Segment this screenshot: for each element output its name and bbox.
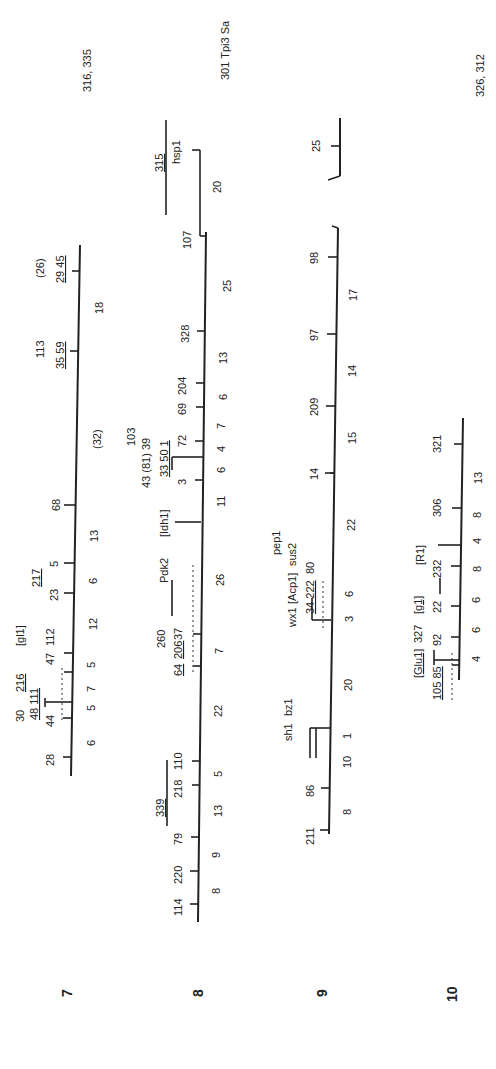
svg-text:220: 220: [172, 866, 184, 884]
svg-text:218: 218: [172, 780, 184, 798]
svg-text:33 50 1: 33 50 1: [158, 440, 170, 477]
svg-text:64: 64: [172, 664, 184, 676]
svg-text:327: 327: [412, 625, 424, 643]
svg-text:13: 13: [217, 352, 229, 364]
svg-text:15: 15: [346, 432, 358, 444]
svg-text:26: 26: [214, 574, 226, 586]
svg-text:6: 6: [87, 578, 99, 584]
svg-text:22: 22: [212, 705, 224, 717]
svg-text:43 (81) 39: 43 (81) 39: [140, 438, 152, 488]
svg-text:37: 37: [172, 628, 184, 640]
svg-text:6: 6: [217, 394, 229, 400]
svg-text:(32): (32): [91, 429, 103, 449]
chromosome-7-label: 7: [59, 989, 75, 997]
svg-text:5: 5: [85, 705, 97, 711]
svg-text:4: 4: [215, 446, 227, 452]
svg-text:315: 315: [153, 154, 165, 172]
svg-text:10: 10: [341, 756, 353, 768]
chromosome-7-labels: 28 44 48 111 30 216 47 112 [gl1] 23 217 …: [14, 49, 105, 997]
svg-text:[Glu1]: [Glu1]: [412, 649, 424, 678]
svg-text:7: 7: [85, 686, 97, 692]
svg-text:6: 6: [470, 627, 482, 633]
chromosome-10-labels: 105 85 [Glu1] 327 92 [g1] 22 232 [R1] 30…: [412, 54, 486, 1002]
svg-text:339: 339: [154, 799, 166, 817]
svg-text:23: 23: [48, 589, 60, 601]
svg-text:98: 98: [308, 252, 320, 264]
svg-text:14: 14: [346, 365, 358, 377]
svg-text:107: 107: [181, 231, 193, 249]
svg-text:(26): (26): [34, 258, 46, 278]
svg-text:301 Tpi3 Sa: 301 Tpi3 Sa: [219, 20, 231, 80]
svg-text:206: 206: [172, 641, 184, 659]
chromosome-10: [434, 418, 463, 700]
svg-text:[Acp1]: [Acp1]: [286, 573, 298, 604]
svg-text:112: 112: [44, 628, 56, 646]
svg-text:14: 14: [308, 468, 320, 480]
svg-text:hsp1: hsp1: [170, 140, 182, 164]
svg-text:47: 47: [44, 653, 56, 665]
svg-text:8: 8: [471, 566, 483, 572]
svg-text:114: 114: [172, 898, 184, 916]
chromosome-9-labels: 211 86 sh1 bz1 wx1 34 222 [Acp1] 80 sus2…: [219, 20, 359, 997]
svg-text:5: 5: [48, 561, 60, 567]
svg-text:260: 260: [155, 630, 167, 648]
svg-text:7: 7: [215, 423, 227, 429]
svg-text:6: 6: [470, 597, 482, 603]
svg-text:sus2: sus2: [286, 543, 298, 566]
svg-text:18: 18: [93, 302, 105, 314]
svg-text:328: 328: [179, 325, 191, 343]
svg-text:306: 306: [431, 499, 443, 517]
svg-text:35 59: 35 59: [54, 341, 66, 369]
svg-text:3: 3: [343, 616, 355, 622]
svg-text:211: 211: [304, 827, 316, 845]
svg-text:13: 13: [472, 472, 484, 484]
chromosome-9-label: 9: [314, 989, 330, 997]
svg-text:105 85: 105 85: [431, 666, 443, 700]
svg-text:[gl1]: [gl1]: [14, 625, 26, 646]
svg-text:6: 6: [215, 467, 227, 473]
svg-text:20: 20: [211, 181, 223, 193]
svg-text:97: 97: [308, 329, 320, 341]
svg-text:13: 13: [88, 530, 100, 542]
svg-text:11: 11: [215, 496, 227, 507]
svg-text:20: 20: [342, 679, 354, 691]
svg-text:44: 44: [44, 715, 56, 727]
svg-text:Pdk2: Pdk2: [158, 558, 170, 583]
svg-text:316, 335: 316, 335: [81, 49, 93, 92]
chromosome-8-labels: 114 220 79 339 218 110 64 206 260 37 Pdk…: [125, 140, 233, 997]
svg-text:30: 30: [14, 710, 26, 722]
svg-text:4: 4: [470, 656, 482, 662]
svg-text:110: 110: [172, 752, 184, 770]
svg-text:209: 209: [308, 398, 320, 416]
svg-text:wx1: wx1: [286, 607, 298, 628]
svg-text:6: 6: [85, 740, 97, 746]
svg-text:6: 6: [343, 591, 355, 597]
svg-text:80: 80: [304, 562, 316, 574]
svg-text:25: 25: [310, 140, 322, 152]
svg-text:232: 232: [431, 560, 443, 578]
svg-text:9: 9: [210, 852, 222, 858]
svg-text:5: 5: [85, 662, 97, 668]
svg-text:1: 1: [341, 733, 353, 739]
svg-text:86: 86: [304, 785, 316, 797]
svg-text:326, 312: 326, 312: [474, 54, 486, 97]
svg-text:pep1: pep1: [270, 531, 282, 555]
svg-text:34 222: 34 222: [304, 580, 316, 614]
svg-text:17: 17: [347, 289, 359, 301]
svg-text:sh1: sh1: [282, 723, 294, 741]
svg-text:204: 204: [176, 377, 188, 395]
svg-text:48 111: 48 111: [28, 688, 40, 720]
svg-text:22: 22: [345, 519, 357, 531]
svg-text:8: 8: [341, 809, 353, 815]
svg-text:[Idh1]: [Idh1]: [158, 509, 170, 537]
svg-text:321: 321: [431, 435, 443, 453]
svg-text:8: 8: [210, 888, 222, 894]
svg-text:68: 68: [50, 499, 62, 511]
svg-text:103: 103: [125, 428, 137, 446]
chromosome-10-label: 10: [444, 986, 460, 1002]
svg-text:72: 72: [176, 435, 188, 447]
svg-text:69: 69: [176, 403, 188, 415]
svg-text:[R1]: [R1]: [414, 545, 426, 565]
svg-text:28: 28: [44, 754, 56, 766]
svg-text:12: 12: [87, 618, 99, 630]
